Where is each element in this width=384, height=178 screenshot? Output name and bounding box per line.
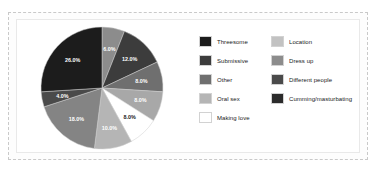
legend-item[interactable]: Threesome [199, 32, 271, 51]
legend-swatch-icon [271, 93, 284, 104]
legend-column-right: LocationDress upDifferent peopleCumming/… [271, 32, 361, 108]
legend-item-label: Other [217, 77, 232, 83]
pie-slice-label: 6.0% [103, 46, 115, 52]
legend-swatch-icon [199, 55, 212, 66]
legend-swatch-icon [199, 36, 212, 47]
pie-slice-label: 8.0% [135, 78, 147, 84]
pie-chart: 6.0%12.0%8.0%8.0%8.0%10.0%18.0%4.0%26.0% [31, 24, 181, 152]
pie-slice-label: 8.0% [134, 97, 146, 103]
legend-item[interactable]: Location [271, 32, 361, 51]
pie-slice-label: 8.0% [123, 114, 135, 120]
legend-swatch-icon [271, 74, 284, 85]
chart-plot-area: 6.0%12.0%8.0%8.0%8.0%10.0%18.0%4.0%26.0%… [16, 19, 360, 153]
legend-item[interactable]: Submissive [199, 51, 271, 70]
pie-slice-label: 4.0% [56, 93, 68, 99]
legend-item[interactable]: Oral sex [199, 89, 271, 108]
legend-item-label: Submissive [217, 58, 248, 64]
chart-legend: ThreesomeSubmissiveOtherOral sexMaking l… [199, 32, 359, 136]
pie-chart-svg: 6.0%12.0%8.0%8.0%8.0%10.0%18.0%4.0%26.0% [31, 24, 181, 152]
legend-swatch-icon [199, 112, 212, 123]
legend-item-label: Location [289, 39, 312, 45]
chart-figure-frame: 6.0%12.0%8.0%8.0%8.0%10.0%18.0%4.0%26.0%… [8, 12, 368, 160]
legend-item-label: Threesome [217, 39, 248, 45]
legend-item[interactable]: Other [199, 70, 271, 89]
pie-slice-label: 26.0% [65, 57, 80, 63]
legend-swatch-icon [199, 74, 212, 85]
legend-item-label: Oral sex [217, 96, 240, 102]
legend-swatch-icon [271, 55, 284, 66]
legend-item[interactable]: Different people [271, 70, 361, 89]
legend-swatch-icon [271, 36, 284, 47]
pie-slice-label: 18.0% [69, 116, 84, 122]
legend-item-label: Making love [217, 115, 250, 121]
legend-item-label: Dress up [289, 58, 313, 64]
legend-item-label: Cumming/masturbating [289, 96, 352, 102]
pie-slice-label: 12.0% [122, 56, 137, 62]
legend-item[interactable]: Cumming/masturbating [271, 89, 361, 108]
legend-column-left: ThreesomeSubmissiveOtherOral sexMaking l… [199, 32, 271, 127]
legend-item[interactable]: Dress up [271, 51, 361, 70]
legend-item[interactable]: Making love [199, 108, 271, 127]
pie-slice-label: 10.0% [102, 125, 117, 131]
legend-item-label: Different people [289, 77, 332, 83]
legend-swatch-icon [199, 93, 212, 104]
